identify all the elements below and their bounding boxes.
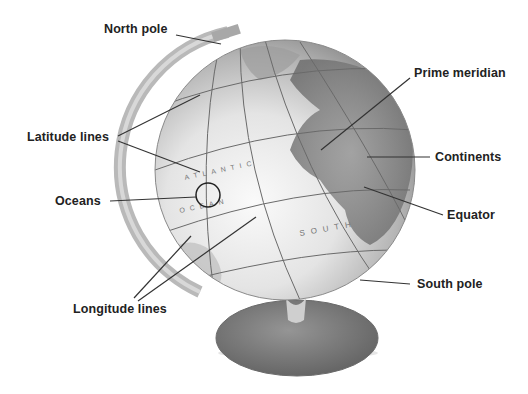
label-equator: Equator <box>447 208 495 222</box>
label-continents: Continents <box>435 150 501 164</box>
label-prime-meridian: Prime meridian <box>414 66 506 80</box>
label-south-pole: South pole <box>417 277 483 291</box>
globe-diagram: ATLANTIC OCEAN SOUTH North pole Latitude… <box>0 0 528 394</box>
globe-sphere: ATLANTIC OCEAN SOUTH <box>150 40 420 300</box>
label-oceans: Oceans <box>55 194 101 208</box>
label-longitude-lines: Longitude lines <box>73 302 167 316</box>
label-north-pole: North pole <box>104 22 168 36</box>
label-latitude-lines: Latitude lines <box>27 130 109 144</box>
globe-base <box>216 298 378 376</box>
south-pole-pointer <box>360 280 410 284</box>
